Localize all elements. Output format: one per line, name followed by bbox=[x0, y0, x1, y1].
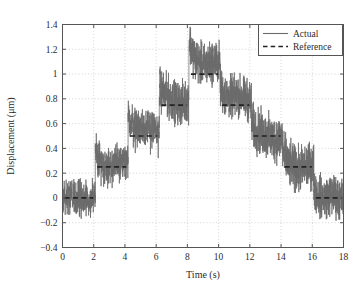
y-tick-label: 1.4 bbox=[46, 20, 58, 30]
displacement-vs-time-chart: −0.4−0.200.20.40.60.811.21.4 02468101214… bbox=[0, 0, 364, 293]
y-tick-label: 0.6 bbox=[46, 119, 58, 129]
y-tick-label: 1 bbox=[53, 69, 58, 79]
legend-label-reference: Reference bbox=[293, 42, 332, 52]
x-tick-label: 6 bbox=[154, 252, 159, 262]
legend-label-actual: Actual bbox=[293, 29, 319, 39]
y-tick-label: 0.2 bbox=[46, 169, 58, 179]
y-tick-label: −0.4 bbox=[40, 243, 57, 253]
x-tick-label: 2 bbox=[91, 252, 96, 262]
x-tick-label: 12 bbox=[245, 252, 255, 262]
y-tick-label: 1.2 bbox=[46, 45, 58, 55]
chart-figure: −0.4−0.200.20.40.60.811.21.4 02468101214… bbox=[0, 0, 364, 293]
y-tick-label: 0 bbox=[53, 193, 58, 203]
y-tick-label: 0.8 bbox=[46, 94, 58, 104]
x-tick-label: 8 bbox=[185, 252, 190, 262]
x-tick-label: 10 bbox=[214, 252, 224, 262]
y-tick-label: 0.4 bbox=[46, 144, 58, 154]
x-axis-title: Time (s) bbox=[186, 269, 220, 281]
x-tick-label: 18 bbox=[339, 252, 349, 262]
y-tick-label: −0.2 bbox=[40, 218, 57, 228]
x-tick-label: 4 bbox=[123, 252, 128, 262]
x-tick-label: 0 bbox=[60, 252, 65, 262]
y-axis-title: Displacement (μm) bbox=[5, 97, 17, 174]
x-tick-label: 16 bbox=[308, 252, 318, 262]
chart-legend: Actual Reference bbox=[259, 25, 343, 56]
x-tick-label: 14 bbox=[276, 252, 286, 262]
